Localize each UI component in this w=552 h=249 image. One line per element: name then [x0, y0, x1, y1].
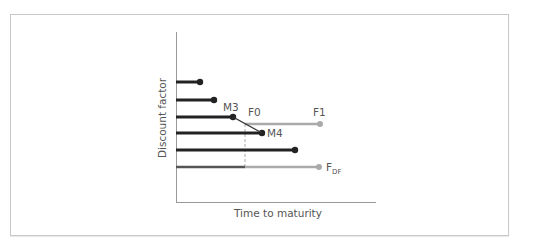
label-m3: M3	[223, 101, 239, 113]
fdf-point	[316, 164, 322, 170]
maturity-point-2	[211, 97, 217, 103]
maturity-point-1	[197, 79, 203, 85]
discount-factor-diagram: M3 M4 F0 F1 FDF Time to maturity Discoun…	[0, 0, 552, 249]
maturity-point-5	[292, 147, 298, 153]
x-axis-label: Time to maturity	[233, 207, 322, 219]
label-f0: F0	[248, 106, 261, 118]
label-f1: F1	[313, 106, 326, 118]
label-fdf-sub: DF	[332, 168, 341, 176]
label-m4: M4	[267, 127, 283, 139]
f1-point	[317, 121, 323, 127]
y-axis-label: Discount factor	[156, 77, 168, 158]
label-fdf: FDF	[326, 161, 341, 176]
